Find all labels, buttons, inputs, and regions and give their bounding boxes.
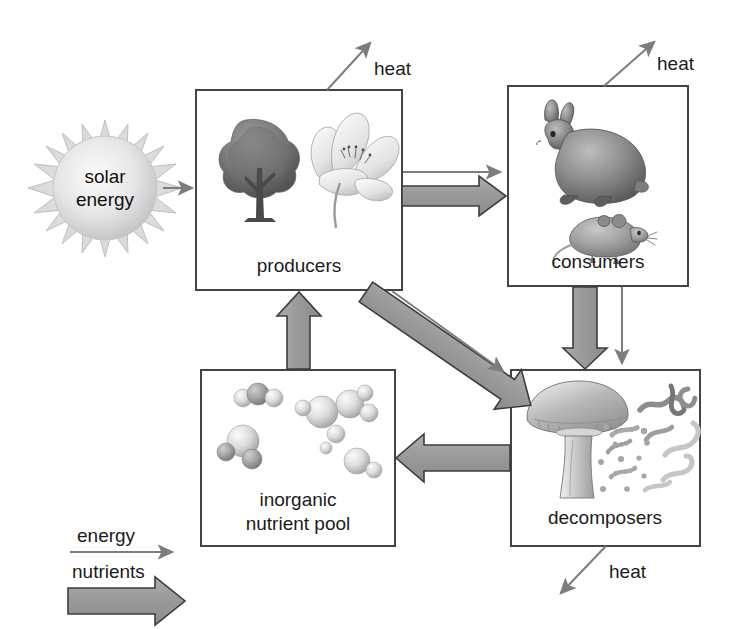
legend-nutrients-label: nutrients	[72, 561, 145, 582]
arrow-decomposers-heat	[561, 546, 606, 593]
box-consumers: consumers	[508, 86, 688, 286]
producers-label: producers	[257, 255, 342, 276]
arrow-decomposers-to-pool-nutrients	[396, 434, 510, 482]
box-nutrient-pool: inorganic nutrient pool	[201, 370, 395, 546]
sun-icon: solar energy	[28, 120, 182, 257]
box-decomposers: decomposers	[511, 370, 700, 546]
decomposers-heat-label: heat	[609, 561, 647, 582]
decomposers-label: decomposers	[548, 507, 662, 528]
nutrient-pool-label-line1: inorganic	[259, 489, 336, 510]
arrow-pool-to-producers-nutrients	[277, 292, 321, 369]
legend-nutrients-arrow	[68, 577, 185, 625]
ecosystem-diagram: solar energy	[0, 0, 729, 629]
consumers-heat-label: heat	[657, 53, 695, 74]
box-producers: producers	[196, 90, 402, 290]
nutrient-pool-label-line2: nutrient pool	[246, 513, 351, 534]
producers-heat-label: heat	[374, 58, 412, 79]
arrow-producers-heat	[327, 43, 370, 90]
arrow-producers-to-consumers-nutrients	[402, 176, 506, 216]
arrow-consumers-heat	[604, 42, 654, 86]
consumers-label: consumers	[552, 251, 645, 272]
sun-label-line2: energy	[76, 189, 135, 210]
diagram-canvas: solar energy	[0, 0, 729, 629]
sun-label-line1: solar	[84, 166, 126, 187]
legend: energy nutrients	[68, 525, 185, 625]
legend-energy-label: energy	[77, 525, 136, 546]
arrow-consumers-to-decomposers-nutrients	[563, 287, 607, 369]
